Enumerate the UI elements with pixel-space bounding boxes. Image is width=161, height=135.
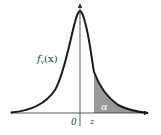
critical-value-label: z [89, 117, 95, 126]
area-label: α [101, 101, 108, 112]
density-diagram: fv(x) 0 z α [0, 0, 161, 135]
density-curve [11, 11, 148, 113]
origin-label: 0 [71, 117, 77, 127]
curve-label: fv(x) [36, 53, 58, 65]
